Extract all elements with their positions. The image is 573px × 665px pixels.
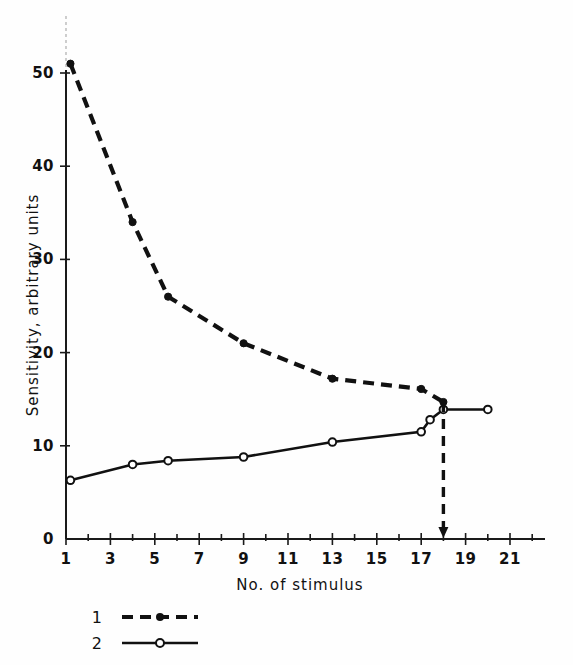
x-tick-label: 1 [61,550,72,568]
x-axis-title: No. of stimulus [236,576,363,594]
legend-label: 1 [92,608,103,627]
x-tick-label: 15 [366,550,388,568]
data-point [426,416,434,424]
figure-container: 01020304050 13579111315171921 Sensitivit… [0,0,573,665]
data-point [67,476,75,484]
legend-label: 2 [92,634,103,653]
series-line-1 [70,64,443,402]
legend-marker [156,639,164,647]
data-point [164,457,172,465]
data-series-layer [67,60,492,484]
chart-canvas: 01020304050 13579111315171921 Sensitivit… [0,0,573,665]
legend-entry-2: 2 [92,634,198,653]
x-tick-label: 9 [238,550,249,568]
x-tick-label: 13 [321,550,343,568]
stimulus-marker-arrow [438,402,448,538]
annotation-layer [438,402,448,538]
data-point [165,293,172,300]
legend-entry-1: 1 [92,608,198,627]
series-line-2 [70,409,487,480]
annotation-arrowhead-icon [438,527,448,538]
chart-legend: 12 [92,608,198,653]
series-1 [67,60,447,406]
axes-group [66,16,545,539]
x-tick-label: 11 [277,550,299,568]
x-tick-label: 5 [149,550,160,568]
x-tick-label: 7 [194,550,205,568]
data-point [129,219,136,226]
y-tick-label: 10 [32,437,54,455]
data-point [129,461,137,469]
y-tick-label: 0 [43,530,54,548]
data-point [329,375,336,382]
data-point [240,340,247,347]
data-point [418,385,425,392]
data-point [329,438,337,446]
data-point [240,453,248,461]
y-axis-title: Sensitivity, arbitrary units [24,194,42,417]
x-tick-label: 3 [105,550,116,568]
x-tick-label: 19 [455,550,477,568]
data-point [417,428,425,436]
data-point [484,406,492,414]
series-2 [67,406,492,484]
x-tick-label: 17 [410,550,432,568]
y-tick-label: 40 [32,157,54,175]
x-tick-label: 21 [499,550,521,568]
y-tick-label: 50 [32,64,54,82]
data-point [67,60,74,67]
legend-marker [156,613,164,621]
